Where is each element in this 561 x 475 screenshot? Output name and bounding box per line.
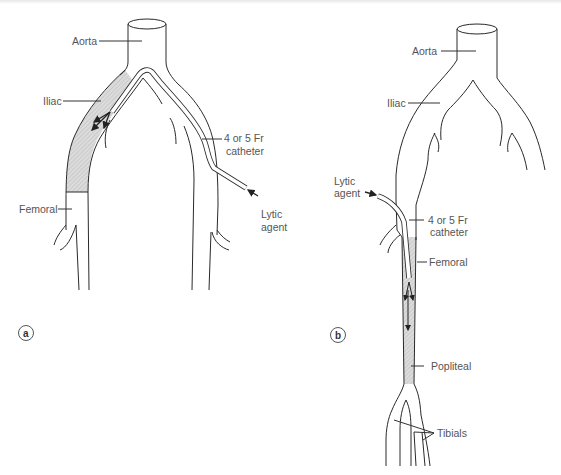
panel-b-letter: b bbox=[335, 330, 341, 341]
label-femoral-a: Femoral bbox=[19, 203, 58, 215]
label-aorta-b: Aorta bbox=[412, 45, 437, 57]
label-lytic-a-line1: Lytic bbox=[261, 208, 282, 220]
label-tibials-b: Tibials bbox=[437, 427, 467, 439]
label-catheter-b-line1: 4 or 5 Fr bbox=[428, 214, 468, 226]
lytic-inflow-arrow-b bbox=[365, 192, 376, 195]
label-iliac-b: Iliac bbox=[387, 97, 406, 109]
panel-a: Aorta Iliac 4 or 5 Fr catheter Femoral L… bbox=[19, 19, 288, 341]
panel-a-letter: a bbox=[23, 328, 29, 339]
arterial-thrombolysis-diagram: Aorta Iliac 4 or 5 Fr catheter Femoral L… bbox=[0, 0, 561, 475]
catheter-a bbox=[112, 70, 246, 188]
label-aorta-a: Aorta bbox=[72, 35, 97, 47]
label-iliac-a: Iliac bbox=[43, 95, 62, 107]
aorta-opening bbox=[128, 19, 166, 29]
label-lytic-b-line1: Lytic bbox=[334, 175, 355, 187]
label-catheter-a-line2: catheter bbox=[226, 145, 264, 157]
panel-b: Aorta Iliac Lytic agent 4 or 5 Fr cathet… bbox=[331, 24, 546, 466]
aorta-opening-b bbox=[457, 24, 497, 34]
lytic-inflow-arrow-a bbox=[248, 190, 258, 196]
label-lytic-a-line2: agent bbox=[261, 221, 287, 233]
label-femoral-b: Femoral bbox=[429, 256, 468, 268]
label-catheter-b-line2: catheter bbox=[430, 226, 468, 238]
label-lytic-b-line2: agent bbox=[334, 187, 360, 199]
occluded-iliac-segment bbox=[66, 70, 134, 192]
label-popliteal-b: Popliteal bbox=[431, 360, 471, 372]
label-catheter-a-line1: 4 or 5 Fr bbox=[224, 132, 264, 144]
